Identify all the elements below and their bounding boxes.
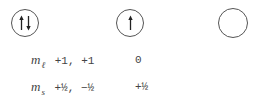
- ms-values-left: +½, −½: [55, 82, 95, 94]
- ms-row: ms +½, −½: [31, 81, 94, 94]
- ml-value-mid: 0: [135, 55, 142, 66]
- ml-symbol: m: [31, 52, 40, 67]
- ml-row: mℓ +1, +1: [31, 54, 94, 67]
- ml-values-left: +1, +1: [55, 55, 95, 67]
- ms-symbol: m: [31, 79, 40, 94]
- spin-down-arrow-icon: [26, 15, 31, 31]
- ms-value-mid: +½: [135, 82, 148, 93]
- ml-subscript: ℓ: [41, 60, 45, 70]
- orbital-1: [11, 9, 39, 37]
- ms-subscript: s: [41, 87, 45, 97]
- spin-up-arrow-icon: [128, 15, 133, 31]
- orbital-3: [218, 8, 248, 38]
- orbital-2: [116, 9, 144, 37]
- spin-up-arrow-icon: [19, 15, 24, 31]
